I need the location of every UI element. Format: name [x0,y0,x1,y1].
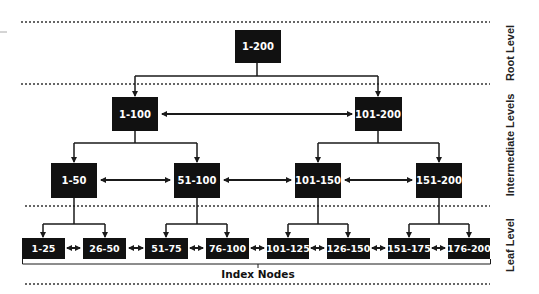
index-nodes-caption: Index Nodes [221,268,294,280]
node-label: 1-100 [119,109,151,120]
node-label: 101-125 [266,243,310,254]
sibling-links [67,114,445,248]
level-label-intermediate: Intermediate Levels [504,94,516,197]
node-root: 1-200 [235,30,281,63]
node-label: 1-50 [61,175,86,186]
node-label: 101-150 [295,175,341,186]
node-label: 151-200 [416,175,462,186]
node-intermediate: 1-100 [112,97,158,131]
node-leaf: 101-125 [266,238,310,259]
node-intermediate: 101-200 [355,97,402,131]
connectors [43,63,469,237]
level-label-leaf: Leaf Level [504,218,516,272]
b-tree-diagram: 1-200 1-100 101-200 1-50 51-100 101-150 … [0,0,539,294]
node-leaf: 176-200 [447,238,491,259]
node-root-label: 1-200 [242,41,274,52]
node-leaf: 126-150 [327,238,371,259]
node-label: 26-50 [89,243,120,254]
node-label: 76-100 [209,243,246,254]
index-nodes-bracket [23,259,491,268]
node-label: 126-150 [327,243,371,254]
node-leaf: 26-50 [83,238,126,259]
node-label: 101-200 [355,109,401,120]
node-label: 51-75 [151,243,181,254]
node-intermediate: 101-150 [295,163,341,198]
node-leaf: 51-75 [145,238,188,259]
node-leaf: 151-175 [387,238,431,259]
node-label: 176-200 [447,243,491,254]
node-label: 1-25 [32,243,56,254]
node-intermediate: 151-200 [416,163,462,198]
node-leaf: 76-100 [206,238,249,259]
node-intermediate: 51-100 [174,163,220,198]
node-intermediate: 1-50 [51,163,97,198]
node-label: 151-175 [387,243,431,254]
level-label-root: Root Level [504,25,516,81]
node-label: 51-100 [178,175,217,186]
node-leaf: 1-25 [22,238,65,259]
